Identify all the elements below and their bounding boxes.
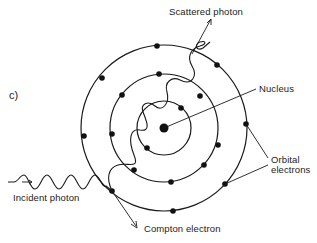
compton-electron-label: Compton electron bbox=[144, 224, 221, 234]
incident-photon-label: Incident photon bbox=[13, 193, 79, 203]
incident-arrow-icon bbox=[22, 180, 32, 184]
scattered-photon-label: Scattered photon bbox=[169, 7, 243, 17]
nucleus-leader bbox=[164, 89, 256, 128]
nucleus bbox=[160, 124, 169, 133]
scattered-photon-wave bbox=[109, 41, 210, 191]
nucleus-label: Nucleus bbox=[259, 84, 294, 94]
compton-electron-arrowhead-icon bbox=[131, 221, 137, 228]
compton-electron-track bbox=[112, 191, 136, 226]
orbital-electrons-label: Orbital electrons bbox=[271, 155, 310, 175]
orbital-electrons-leader-2 bbox=[225, 165, 268, 184]
panel-label: c) bbox=[9, 90, 18, 100]
orbital-electrons-label-line2: electrons bbox=[271, 165, 310, 175]
compton-scattering-diagram bbox=[0, 0, 317, 243]
orbital-electrons-leader-1 bbox=[246, 124, 268, 158]
incident-photon-wave bbox=[8, 175, 112, 191]
